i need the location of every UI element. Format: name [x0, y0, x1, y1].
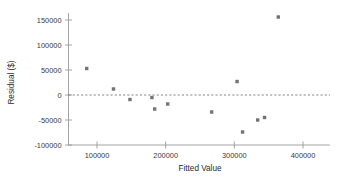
x-tick-label: 400000 [291, 151, 316, 160]
residual-plot-figure: 150000100000500000-50000-100000100000200… [0, 0, 341, 184]
data-point-marker [241, 130, 244, 133]
data-point-marker [263, 116, 266, 119]
data-point-marker [150, 96, 153, 99]
x-tick-label: 300000 [222, 151, 247, 160]
y-tick-label: -100000 [34, 141, 61, 150]
y-tick-label: 100000 [37, 41, 62, 50]
data-point-marker [153, 107, 156, 110]
scatter-plot-canvas: 150000100000500000-50000-100000100000200… [0, 0, 341, 184]
data-point-marker [112, 87, 115, 90]
y-tick-label: 150000 [37, 16, 62, 25]
y-tick-label: -50000 [38, 116, 61, 125]
data-point-marker [235, 80, 238, 83]
y-tick-label: 50000 [41, 66, 62, 75]
x-axis-title: Fitted Value [178, 164, 222, 173]
data-point-marker [128, 98, 131, 101]
data-point-marker [166, 102, 169, 105]
data-point-marker [210, 110, 213, 113]
data-point-marker [85, 67, 88, 70]
y-axis-title: Residual ($) [7, 60, 16, 104]
data-point-marker [277, 15, 280, 18]
x-tick-label: 200000 [153, 151, 178, 160]
y-tick-label: 0 [57, 91, 61, 100]
data-point-marker [256, 118, 259, 121]
x-tick-label: 100000 [85, 151, 110, 160]
